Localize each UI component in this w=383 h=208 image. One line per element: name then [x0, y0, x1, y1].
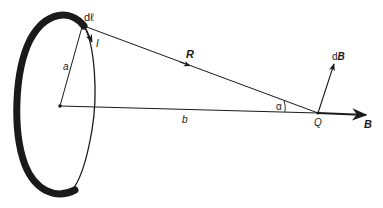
- alpha-label: α: [276, 101, 282, 112]
- point-Q-dot: [317, 112, 320, 115]
- current-loop-front: [70, 26, 95, 192]
- dl-label: dℓ: [84, 11, 94, 23]
- R-arrow-icon: [180, 62, 190, 66]
- current-loop-back: [17, 15, 84, 194]
- dB-vector: [318, 64, 334, 113]
- dB-label: dB: [332, 51, 345, 62]
- alpha-arc: [284, 101, 285, 113]
- point-Q-label: Q: [314, 117, 322, 128]
- radius-label: a: [63, 61, 69, 72]
- loop-field-diagram: dℓ I a R α b Q B dB: [0, 0, 383, 208]
- R-vector-line: [84, 26, 318, 113]
- B-vector: [318, 113, 366, 115]
- R-label: R: [186, 48, 194, 60]
- B-label: B: [364, 118, 372, 130]
- current-label: I: [96, 38, 99, 49]
- distance-label: b: [182, 114, 188, 125]
